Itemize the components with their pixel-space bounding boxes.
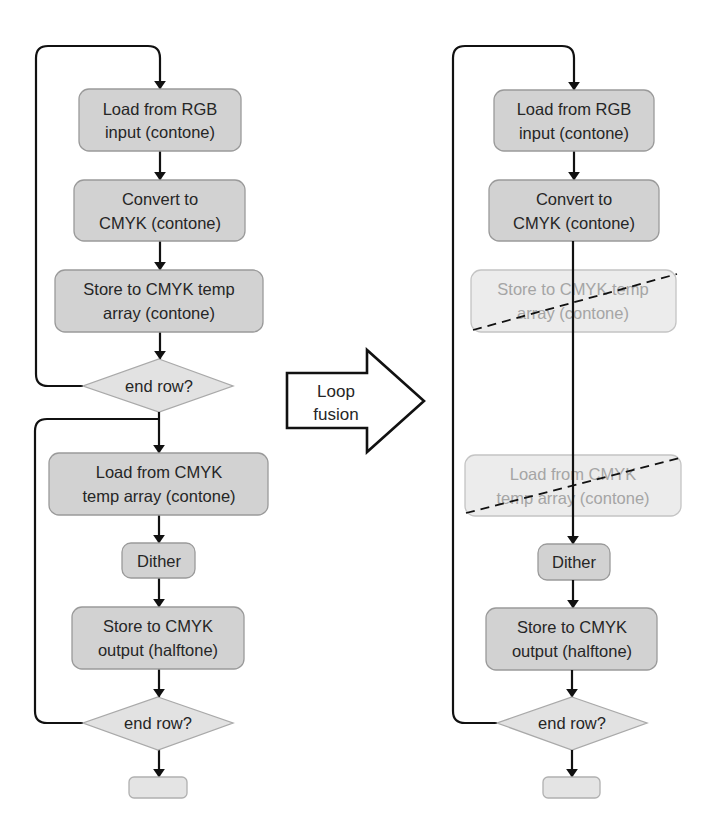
node-label: array (contone) xyxy=(103,304,215,322)
node-label: Store to CMYK xyxy=(517,618,627,636)
after-flowchart: Load from RGB input (contone) Convert to… xyxy=(453,46,681,798)
right-arrow-icon xyxy=(287,350,424,452)
node-label: Convert to xyxy=(122,190,198,208)
node-label: Dither xyxy=(552,553,597,571)
decision-end-row-1: end row? xyxy=(83,359,233,412)
decision-end-row: end row? xyxy=(497,697,647,750)
loop-fusion-diagram: Load from RGB input (contone) Convert to… xyxy=(0,0,709,823)
before-flowchart: Load from RGB input (contone) Convert to… xyxy=(35,46,268,798)
node-store-output: Store to CMYK output (halftone) xyxy=(486,608,657,670)
decision-label: end row? xyxy=(125,377,193,395)
node-label: input (contone) xyxy=(519,124,629,142)
node-load-temp: Load from CMYK temp array (contone) xyxy=(49,453,268,515)
loop-fusion-arrow: Loop fusion xyxy=(287,350,424,452)
node-label: Dither xyxy=(137,552,182,570)
node-load-rgb: Load from RGB input (contone) xyxy=(494,90,654,151)
node-store-temp: Store to CMYK temp array (contone) xyxy=(55,270,263,332)
node-dither: Dither xyxy=(122,543,195,578)
decision-end-row-2: end row? xyxy=(83,697,233,750)
node-label: CMYK (contone) xyxy=(99,214,221,232)
node-label: Convert to xyxy=(536,190,612,208)
transform-label: Loop xyxy=(317,382,355,401)
node-store-output: Store to CMYK output (halftone) xyxy=(72,607,244,669)
node-dither: Dither xyxy=(538,544,610,580)
node-label: Load from RGB xyxy=(517,100,632,118)
node-label: output (halftone) xyxy=(98,641,218,659)
node-convert-cmyk: Convert to CMYK (contone) xyxy=(74,180,245,241)
node-label: output (halftone) xyxy=(512,642,632,660)
node-label: Load from RGB xyxy=(103,100,218,118)
node-terminal xyxy=(543,777,600,798)
node-load-rgb: Load from RGB input (contone) xyxy=(79,89,241,151)
decision-label: end row? xyxy=(538,714,606,732)
node-label: Load from CMYK xyxy=(96,463,223,481)
node-label: CMYK (contone) xyxy=(513,214,635,232)
node-label: Store to CMYK xyxy=(103,617,213,635)
node-convert-cmyk: Convert to CMYK (contone) xyxy=(489,180,659,241)
node-label: input (contone) xyxy=(105,123,215,141)
node-label: Store to CMYK temp xyxy=(83,280,234,298)
node-label: temp array (contone) xyxy=(82,487,235,505)
node-terminal xyxy=(129,777,187,798)
transform-label: fusion xyxy=(313,405,358,424)
decision-label: end row? xyxy=(124,714,192,732)
